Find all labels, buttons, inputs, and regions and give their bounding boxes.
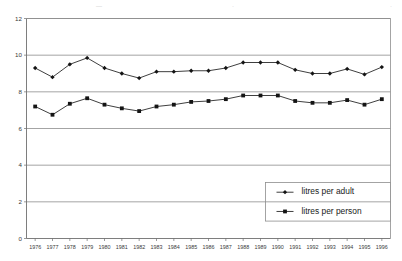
x-axis-label-1981: 1981 — [116, 244, 128, 250]
datapoint-litres-per-adult-1976 — [33, 66, 37, 70]
x-axis-label-1989: 1989 — [255, 244, 267, 250]
x-axis-label-1977: 1977 — [47, 244, 59, 250]
datapoint-litres-per-person-1981 — [120, 106, 124, 110]
datapoint-litres-per-person-1994 — [345, 98, 349, 102]
x-axis-label-1983: 1983 — [151, 244, 163, 250]
datapoint-litres-per-person-1988 — [241, 94, 245, 98]
datapoint-litres-per-person-1984 — [172, 103, 176, 107]
datapoint-litres-per-person-1985 — [189, 100, 193, 104]
datapoint-litres-per-adult-1996 — [380, 65, 384, 69]
datapoint-litres-per-adult-1980 — [102, 66, 106, 70]
x-axis-label-1976: 1976 — [29, 244, 41, 250]
datapoint-litres-per-person-1977 — [51, 113, 55, 117]
datapoint-litres-per-adult-1981 — [120, 71, 124, 75]
datapoint-litres-per-person-1991 — [293, 99, 297, 103]
datapoint-litres-per-adult-1993 — [328, 71, 332, 75]
y-axis-label-0: 0 — [19, 235, 23, 242]
datapoint-litres-per-person-1995 — [363, 103, 367, 107]
datapoint-litres-per-person-1976 — [33, 105, 37, 109]
datapoint-litres-per-person-1987 — [224, 97, 228, 101]
x-axis-label-1994: 1994 — [341, 244, 353, 250]
legend-label-0: litres per adult — [302, 186, 355, 196]
y-axis-label-10: 10 — [15, 51, 22, 58]
x-axis-label-1979: 1979 — [81, 244, 93, 250]
datapoint-litres-per-adult-1988 — [241, 60, 245, 64]
x-axis-label-1988: 1988 — [237, 244, 249, 250]
x-axis-label-1978: 1978 — [64, 244, 76, 250]
x-axis-label-1992: 1992 — [307, 244, 319, 250]
datapoint-litres-per-adult-1994 — [345, 67, 349, 71]
y-axis-label-6: 6 — [19, 125, 23, 132]
datapoint-litres-per-person-1979 — [85, 96, 89, 100]
datapoint-litres-per-adult-1990 — [276, 60, 280, 64]
x-axis-label-1990: 1990 — [272, 244, 284, 250]
x-axis-label-1996: 1996 — [376, 244, 388, 250]
x-axis-label-1986: 1986 — [203, 244, 215, 250]
datapoint-litres-per-person-1993 — [328, 101, 332, 105]
datapoint-litres-per-person-1980 — [103, 103, 107, 107]
legend-marker-square-icon — [283, 210, 287, 214]
datapoint-litres-per-person-1996 — [380, 97, 384, 101]
datapoint-litres-per-person-1986 — [207, 99, 211, 103]
datapoint-litres-per-person-1989 — [259, 94, 263, 98]
datapoint-litres-per-adult-1986 — [206, 69, 210, 73]
x-axis-label-1982: 1982 — [133, 244, 145, 250]
x-axis-label-1993: 1993 — [324, 244, 336, 250]
datapoint-litres-per-adult-1979 — [85, 56, 89, 60]
legend-label-1: litres per person — [302, 206, 362, 216]
datapoint-litres-per-person-1990 — [276, 94, 280, 98]
datapoint-litres-per-person-1978 — [68, 102, 72, 106]
x-axis-label-1984: 1984 — [168, 244, 180, 250]
chart-container: —·· 024681012197619771978197919801981198… — [0, 0, 402, 261]
datapoint-litres-per-adult-1995 — [362, 72, 366, 76]
datapoint-litres-per-person-1992 — [311, 101, 315, 105]
datapoint-litres-per-adult-1989 — [258, 60, 262, 64]
x-axis-label-1985: 1985 — [185, 244, 197, 250]
y-axis-label-4: 4 — [19, 161, 23, 168]
datapoint-litres-per-adult-1987 — [224, 66, 228, 70]
y-axis-label-12: 12 — [15, 15, 22, 22]
x-axis-label-1987: 1987 — [220, 244, 232, 250]
datapoint-litres-per-adult-1985 — [189, 69, 193, 73]
datapoint-litres-per-adult-1984 — [172, 70, 176, 74]
datapoint-litres-per-person-1982 — [137, 109, 141, 113]
x-axis-label-1980: 1980 — [99, 244, 111, 250]
y-axis-label-8: 8 — [19, 88, 23, 95]
datapoint-litres-per-adult-1991 — [293, 68, 297, 72]
datapoint-litres-per-person-1983 — [155, 105, 159, 109]
y-axis-label-2: 2 — [19, 198, 23, 205]
x-axis-label-1991: 1991 — [289, 244, 301, 250]
datapoint-litres-per-adult-1992 — [310, 71, 314, 75]
datapoint-litres-per-adult-1982 — [137, 76, 141, 80]
x-axis-label-1995: 1995 — [359, 244, 371, 250]
datapoint-litres-per-adult-1983 — [154, 70, 158, 74]
line-chart-plot: 0246810121976197719781979198019811982198… — [0, 0, 402, 261]
